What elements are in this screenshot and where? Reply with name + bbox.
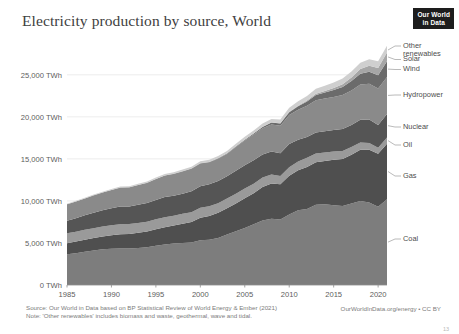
x-axis-tick-label: 2000 bbox=[192, 290, 209, 299]
x-axis-tick-label: 2020 bbox=[370, 290, 387, 299]
footer-note: Note: 'Other renewables' includes biomas… bbox=[26, 312, 277, 320]
legend-leader-line-other-renewables bbox=[388, 46, 401, 50]
legend-item-nuclear[interactable]: Nuclear bbox=[403, 123, 428, 131]
legend-item-coal[interactable]: Coal bbox=[403, 235, 418, 243]
x-axis-tick-label: 1985 bbox=[59, 290, 76, 299]
footer-notes: Source: Our World in Data based on BP St… bbox=[26, 304, 277, 320]
x-axis-tick-label: 1995 bbox=[147, 290, 164, 299]
x-axis-tick-label: 2005 bbox=[236, 290, 253, 299]
y-axis-tick-label: 15,000 TWh bbox=[21, 155, 62, 164]
legend-leader-line-nuclear bbox=[388, 126, 401, 127]
y-axis-tick-label: 10,000 TWh bbox=[21, 197, 62, 206]
legend-item-gas[interactable]: Gas bbox=[403, 172, 417, 180]
legend-leader-line-coal bbox=[388, 239, 401, 242]
page-number: 13 bbox=[443, 326, 449, 332]
y-axis-tick-label: 25,000 TWh bbox=[21, 71, 62, 80]
x-axis-tick-label: 2010 bbox=[281, 290, 298, 299]
footer-source: Source: Our World in Data based on BP St… bbox=[26, 304, 277, 312]
y-axis-tick-label: 20,000 TWh bbox=[21, 113, 62, 122]
y-axis-tick-label: 5,000 TWh bbox=[25, 239, 62, 248]
x-axis-tick-label: 1990 bbox=[103, 290, 120, 299]
stacked-area-plot: 0 TWh5,000 TWh10,000 TWh15,000 TWh20,000… bbox=[0, 0, 459, 334]
y-axis-tick-label: 0 TWh bbox=[40, 281, 62, 290]
legend-leader-line-oil bbox=[388, 141, 401, 145]
legend-item-hydropower[interactable]: Hydropower bbox=[403, 91, 443, 99]
legend-leader-line-solar bbox=[388, 57, 401, 60]
x-axis-tick-label: 2015 bbox=[325, 290, 342, 299]
legend-item-solar[interactable]: Solar bbox=[403, 55, 420, 63]
legend-item-oil[interactable]: Oil bbox=[403, 141, 412, 149]
legend-leader-line-gas bbox=[388, 172, 401, 177]
chart-container: Electricity production by source, World … bbox=[0, 0, 459, 334]
footer-attribution: OurWorldInData.org/energy • CC BY bbox=[341, 305, 441, 312]
legend-item-wind[interactable]: Wind bbox=[403, 65, 420, 73]
